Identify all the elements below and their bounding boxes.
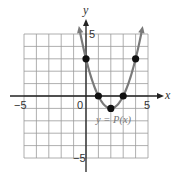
y-tick-max: 5: [89, 29, 95, 40]
plot-area: [0, 0, 175, 172]
data-point: [82, 55, 89, 62]
y-axis-arrow-icon: [83, 19, 89, 26]
data-point: [120, 92, 127, 99]
x-axis-label: x: [165, 89, 170, 101]
y-tick-min: −5: [73, 153, 86, 164]
x-axis-arrow-icon: [157, 93, 164, 99]
data-point: [107, 105, 114, 112]
curve-arrow-icon: [77, 26, 83, 33]
x-tick-min: −5: [14, 100, 27, 111]
y-axis-label: y: [83, 4, 88, 16]
graph: y x −5 0 5 5 −5 y = P(x): [0, 0, 175, 172]
data-point: [132, 55, 139, 62]
curve-arrow-icon: [138, 26, 144, 33]
x-tick-max: 5: [144, 100, 150, 111]
data-point: [95, 92, 102, 99]
curve-label: y = P(x): [96, 115, 131, 126]
x-tick-zero: 0: [77, 100, 83, 111]
